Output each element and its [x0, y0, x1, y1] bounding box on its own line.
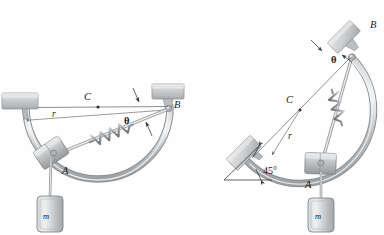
right-diagram: B C A r θ 45° m	[224, 19, 377, 232]
left-mass-block	[37, 196, 63, 232]
physics-figure-svg: C B A r θ m	[0, 0, 384, 235]
right-label-mass: m	[315, 211, 321, 221]
left-support-block	[2, 93, 38, 119]
right-collar-pin	[318, 160, 324, 166]
left-label-r: r	[52, 109, 56, 119]
left-label-b: B	[174, 99, 181, 110]
right-radius-dimension	[272, 110, 300, 155]
right-pin-b-highlight	[350, 55, 353, 57]
right-diameter-reference-line	[252, 58, 350, 158]
right-label-r: r	[288, 131, 292, 141]
left-label-a: A	[61, 165, 69, 176]
right-label-b: B	[370, 19, 377, 30]
left-collar-pin	[50, 150, 56, 156]
right-label-incline-angle: 45°	[263, 165, 277, 176]
left-horizontal-reference-line	[38, 107, 168, 108]
right-label-theta: θ	[331, 54, 337, 65]
figure-root: C B A r θ m	[0, 0, 384, 235]
left-label-mass: m	[43, 211, 49, 221]
right-label-a: A	[304, 179, 312, 190]
right-label-c: C	[286, 94, 294, 105]
left-diagram: C B A r θ m	[2, 84, 184, 232]
left-label-c: C	[84, 91, 92, 102]
left-center-point-c	[97, 106, 100, 109]
left-label-theta: θ	[124, 115, 130, 126]
